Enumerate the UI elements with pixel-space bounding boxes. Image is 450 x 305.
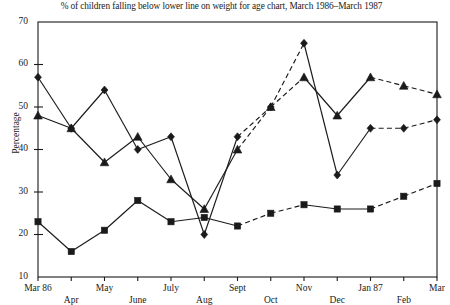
series-square	[35, 180, 440, 254]
data-point-square	[168, 219, 174, 225]
series-segment-solid	[204, 137, 237, 235]
series-segment-solid	[204, 150, 237, 210]
data-point-square	[401, 193, 407, 199]
data-point-square	[135, 197, 141, 203]
series-segment-dashed	[371, 77, 404, 86]
data-point-diamond	[434, 116, 441, 124]
series-diamond	[35, 39, 441, 238]
series-segment-solid	[337, 77, 370, 115]
series-segment-dashed	[404, 184, 437, 197]
data-point-diamond	[400, 124, 407, 132]
series-segment-dashed	[371, 196, 404, 209]
series-segment-dashed	[238, 213, 271, 226]
data-point-square	[367, 206, 373, 212]
data-point-diamond	[201, 231, 208, 239]
series-segment-dashed	[271, 205, 304, 214]
series-segment-dashed	[404, 86, 437, 95]
data-point-square	[268, 210, 274, 216]
series-triangle	[34, 73, 442, 213]
data-point-square	[101, 227, 107, 233]
data-point-square	[35, 219, 41, 225]
series-segment-solid	[38, 222, 71, 252]
data-point-triangle	[399, 81, 408, 89]
series-segment-solid	[138, 201, 171, 222]
series-segment-dashed	[238, 107, 271, 150]
data-point-square	[68, 248, 74, 254]
data-point-diamond	[301, 39, 308, 47]
series-segment-solid	[38, 116, 71, 129]
data-point-diamond	[134, 146, 141, 154]
series-segment-solid	[204, 218, 237, 227]
data-point-square	[301, 202, 307, 208]
series-segment-solid	[105, 201, 138, 231]
data-point-diamond	[168, 133, 175, 141]
data-point-triangle	[433, 90, 442, 98]
data-point-triangle	[366, 73, 375, 81]
series-segment-solid	[71, 90, 104, 128]
series-segment-solid	[304, 205, 337, 209]
data-point-square	[201, 214, 207, 220]
series-segment-solid	[337, 128, 370, 175]
series-segment-solid	[38, 77, 71, 128]
series-segment-solid	[71, 230, 104, 251]
data-point-square	[434, 180, 440, 186]
data-series-group	[34, 39, 442, 254]
data-point-triangle	[133, 132, 142, 140]
data-point-square	[334, 206, 340, 212]
series-segment-dashed	[404, 120, 437, 129]
series-segment-solid	[171, 179, 204, 209]
series-segment-dashed	[271, 77, 304, 107]
series-segment-solid	[71, 128, 104, 162]
data-point-square	[234, 223, 240, 229]
series-segment-solid	[105, 137, 138, 163]
data-point-triangle	[34, 111, 43, 119]
series-segment-dashed	[238, 107, 271, 137]
series-segment-dashed	[271, 43, 304, 107]
data-point-triangle	[300, 73, 309, 81]
